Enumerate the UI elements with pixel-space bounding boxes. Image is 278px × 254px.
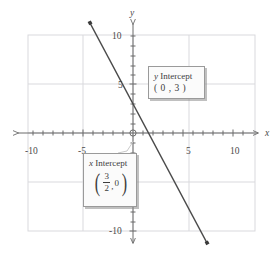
coordinate-plane-figure: -10 -5 5 10 10 5 -10 x y y Intercept ( 0…	[0, 0, 278, 254]
y-tick-label-ten: 10	[112, 31, 122, 41]
y-axis-label: y	[129, 8, 135, 18]
fraction-numerator: 3	[104, 172, 109, 182]
x-axis-label: x	[264, 128, 270, 138]
left-paren: (	[95, 173, 100, 193]
y-tick-label-five: 5	[118, 80, 123, 90]
coordinate-comma: ,	[111, 181, 113, 193]
y-intercept-callout: y Intercept ( 0 , 3 )	[148, 66, 205, 99]
x-intercept-callout: x Intercept ( 3 2 , 0 )	[83, 153, 137, 207]
y-tick-label-neg-ten: -10	[109, 226, 122, 236]
x-intercept-title-text: Intercept	[93, 158, 127, 168]
fraction-denominator: 2	[104, 183, 109, 193]
x-intercept-coordinates: ( 3 2 , 0 )	[89, 172, 133, 193]
x-axis	[18, 130, 258, 137]
x-tick-label-neg-ten: -10	[25, 146, 38, 156]
y-intercept-callout-title: y Intercept	[154, 70, 200, 82]
y-intercept-title-text: Intercept	[158, 71, 192, 81]
second-coordinate: 0	[114, 178, 119, 188]
y-intercept-coordinates: ( 0 , 3 )	[154, 82, 200, 95]
right-paren: )	[122, 173, 127, 193]
fraction-three-halves: 3 2	[103, 172, 110, 193]
x-tick-label-five: 5	[186, 146, 191, 156]
graph-canvas: -10 -5 5 10 10 5 -10 x y	[0, 0, 278, 254]
x-tick-label-ten: 10	[230, 146, 240, 156]
